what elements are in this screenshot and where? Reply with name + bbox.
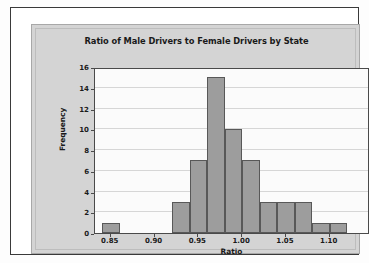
y-axis-tick-label: 10 bbox=[67, 126, 89, 134]
y-axis-tick-label: 0 bbox=[67, 230, 89, 238]
histogram-bar bbox=[330, 223, 348, 233]
plot-area bbox=[94, 68, 369, 234]
chart-title: Ratio of Male Drivers to Female Drivers … bbox=[32, 36, 361, 46]
y-axis-title: Frequency bbox=[58, 108, 67, 151]
histogram-bar bbox=[312, 223, 330, 233]
x-axis-tick-mark bbox=[110, 234, 111, 237]
histogram-bar bbox=[295, 202, 313, 233]
histogram-bar bbox=[102, 223, 120, 233]
histogram-bar bbox=[207, 77, 225, 233]
x-axis-tick-mark bbox=[285, 234, 286, 237]
histogram-bar bbox=[260, 202, 278, 233]
histogram-bar bbox=[172, 202, 190, 233]
histogram-bar bbox=[190, 160, 208, 233]
y-axis-tick-label: 2 bbox=[67, 209, 89, 217]
x-axis-title: Ratio bbox=[94, 247, 369, 256]
y-axis-tick-label: 6 bbox=[67, 168, 89, 176]
chart-panel: Ratio of Male Drivers to Female Drivers … bbox=[31, 24, 360, 254]
figure-root: Ratio of Male Drivers to Female Drivers … bbox=[0, 0, 369, 263]
x-axis-tick-label: 0.90 bbox=[136, 237, 172, 245]
x-axis-tick-mark bbox=[241, 234, 242, 237]
x-axis-tick-label: 0.85 bbox=[92, 237, 128, 245]
histogram-bar bbox=[242, 160, 260, 233]
x-axis-tick-mark bbox=[154, 234, 155, 237]
histogram-bar bbox=[277, 202, 295, 233]
x-axis-tick-mark bbox=[329, 234, 330, 237]
figure-outer-frame: Ratio of Male Drivers to Female Drivers … bbox=[10, 7, 359, 255]
x-axis-tick-mark bbox=[197, 234, 198, 237]
x-axis-tick-label: 1.10 bbox=[311, 237, 347, 245]
y-axis-tick-label: 14 bbox=[67, 85, 89, 93]
x-axis-tick-label: 1.05 bbox=[267, 237, 303, 245]
y-axis-tick-label: 4 bbox=[67, 189, 89, 197]
y-axis-tick-label: 12 bbox=[67, 106, 89, 114]
y-axis-tick-label: 16 bbox=[67, 64, 89, 72]
y-axis-tick-label: 8 bbox=[67, 147, 89, 155]
gridline bbox=[95, 87, 368, 88]
x-axis-tick-label: 1.00 bbox=[223, 237, 259, 245]
x-axis-tick-label: 0.95 bbox=[179, 237, 215, 245]
gridline bbox=[95, 108, 368, 109]
histogram-bar bbox=[225, 129, 243, 233]
y-axis-tick-mark bbox=[91, 234, 94, 235]
